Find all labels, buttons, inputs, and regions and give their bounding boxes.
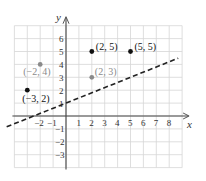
x-axis-label: x xyxy=(186,118,192,130)
y-tick-label: −1 xyxy=(55,124,65,134)
data-point xyxy=(25,88,30,93)
coordinate-plane: xy−2−112345678−3−2−1123456(2, 5)(5, 5)(−… xyxy=(0,0,206,181)
x-tick-label: 7 xyxy=(154,118,159,128)
y-tick-label: 6 xyxy=(59,34,64,44)
y-tick-label: 2 xyxy=(59,86,64,96)
point-label: (2, 3) xyxy=(95,66,117,78)
data-point xyxy=(128,49,133,54)
x-tick-label: −2 xyxy=(34,118,44,128)
x-tick-label: 1 xyxy=(76,118,81,128)
data-point xyxy=(89,75,94,80)
y-axis-label: y xyxy=(55,11,61,23)
y-tick-label: 4 xyxy=(59,60,64,70)
data-point xyxy=(89,49,94,54)
x-tick-label: 2 xyxy=(89,118,94,128)
x-tick-label: 6 xyxy=(141,118,146,128)
point-label: (2, 5) xyxy=(96,41,118,53)
y-tick-label: −2 xyxy=(55,137,65,147)
x-tick-label: 8 xyxy=(167,118,172,128)
x-tick-label: 4 xyxy=(115,118,120,128)
point-label: (−3, 2) xyxy=(22,93,49,105)
y-tick-label: −3 xyxy=(55,150,65,160)
point-label: (−2, 4) xyxy=(23,66,50,78)
x-tick-label: 3 xyxy=(102,118,107,128)
point-label: (5, 5) xyxy=(135,41,157,53)
x-tick-label: 5 xyxy=(128,118,133,128)
y-tick-label: 5 xyxy=(59,47,64,57)
y-tick-label: 3 xyxy=(59,73,64,83)
